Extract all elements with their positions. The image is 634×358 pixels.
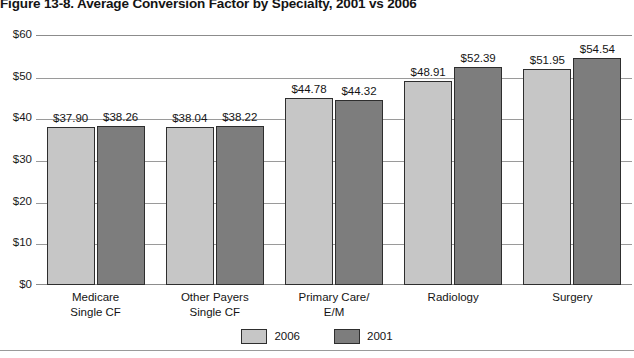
x-axis-tick-label: Other PayersSingle CF	[155, 290, 275, 319]
x-axis-tick-label-line: Other Payers	[155, 290, 275, 305]
legend-swatch-2001	[334, 329, 360, 344]
legend-swatch-2006	[241, 329, 267, 344]
bar-2001	[335, 100, 383, 285]
legend-label-2001: 2001	[367, 330, 393, 342]
y-axis-tick-label: $10	[0, 237, 32, 248]
x-axis-category-labels: MedicareSingle CFOther PayersSingle CFPr…	[36, 290, 632, 324]
y-axis-tick-label: $40	[0, 112, 32, 123]
y-axis-tick-label: $20	[0, 196, 32, 207]
bar-2006	[523, 69, 571, 285]
legend-item-2001[interactable]: 2001	[334, 329, 393, 344]
chart-legend: 20062001	[0, 327, 634, 345]
x-axis-tick-label-line: Radiology	[393, 290, 513, 305]
x-axis-tick-label-line: Medicare	[36, 290, 156, 305]
bar-value-label: $44.32	[329, 85, 389, 97]
x-axis-tick-label-line: Surgery	[512, 290, 632, 305]
x-axis-tick-label: MedicareSingle CF	[36, 290, 156, 319]
page-title: Figure 13-8. Average Conversion Factor b…	[0, 0, 634, 14]
x-axis-tick-label: Primary Care/E/M	[274, 290, 394, 319]
bar-value-label: $48.91	[398, 66, 458, 78]
x-axis-tick-label: Radiology	[393, 290, 513, 305]
x-axis-tick-label-line: Single CF	[36, 305, 156, 320]
bar-2001	[97, 126, 145, 285]
bar-value-label: $51.95	[517, 54, 577, 66]
y-axis-tick-label: $0	[0, 279, 32, 290]
y-axis-tick-label: $60	[0, 29, 32, 40]
bar-value-label: $38.22	[210, 111, 270, 123]
legend-item-2006[interactable]: 2006	[241, 329, 300, 344]
bar-group: $44.78$44.32	[281, 35, 387, 285]
x-axis-tick-label-line: Primary Care/	[274, 290, 394, 305]
bar-group: $51.95$54.54	[519, 35, 625, 285]
bar-value-label: $38.26	[91, 111, 151, 123]
bar-series-container: $37.90$38.26$38.04$38.22$44.78$44.32$48.…	[36, 35, 632, 285]
bottom-divider	[0, 350, 634, 351]
bar-value-label: $54.54	[567, 43, 627, 55]
bar-2006	[47, 127, 95, 285]
x-axis-tick-label-line: E/M	[274, 305, 394, 320]
bar-2001	[573, 58, 621, 285]
legend-label-2006: 2006	[274, 330, 300, 342]
bar-chart: $60$50$40$30$20$10$0 $37.90$38.26$38.04$…	[0, 18, 634, 318]
bar-2006	[166, 127, 214, 286]
bar-2001	[216, 126, 264, 285]
x-axis-tick-label-line: Single CF	[155, 305, 275, 320]
bar-2006	[285, 98, 333, 285]
y-axis-tick-label: $30	[0, 154, 32, 165]
bar-group: $37.90$38.26	[43, 35, 149, 285]
y-axis-tick-label: $50	[0, 71, 32, 82]
bar-2001	[454, 67, 502, 285]
x-axis-tick-label: Surgery	[512, 290, 632, 305]
bar-group: $38.04$38.22	[162, 35, 268, 285]
bar-value-label: $52.39	[448, 52, 508, 64]
bar-group: $48.91$52.39	[400, 35, 506, 285]
bar-2006	[404, 81, 452, 285]
